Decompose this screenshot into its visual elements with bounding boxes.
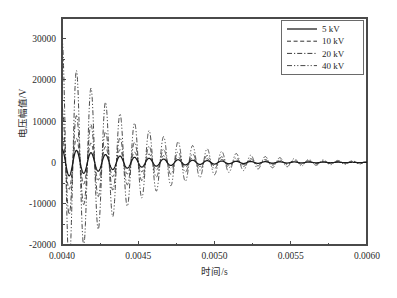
damped-oscillation-chart: 0.00400.00450.00500.00550.0060 300002000… — [0, 0, 397, 298]
legend-label-40-kv: 40 kV — [322, 61, 345, 71]
y-tick-label: 0 — [51, 158, 56, 168]
x-tick-label: 0.0060 — [354, 251, 380, 261]
x-axis-title: 时间/s — [201, 266, 228, 277]
x-axis-tick-marks — [62, 241, 367, 245]
y-tick-label: 30000 — [32, 34, 56, 44]
x-axis-tick-labels: 0.00400.00450.00500.00550.0060 — [49, 251, 380, 261]
chart-legend: 5 kV10 kV20 kV40 kV — [281, 20, 363, 74]
x-tick-label: 0.0045 — [125, 251, 151, 261]
y-tick-label: -10000 — [29, 199, 56, 209]
y-axis-title: 电压幅值/V — [17, 89, 28, 139]
x-tick-label: 0.0050 — [201, 251, 227, 261]
y-tick-label: 10000 — [32, 117, 56, 127]
y-tick-label: -20000 — [29, 240, 56, 250]
y-axis-tick-labels: 3000020000100000-10000-20000 — [29, 34, 56, 250]
legend-label-10-kv: 10 kV — [322, 36, 345, 46]
y-tick-label: 20000 — [32, 75, 56, 85]
x-tick-label: 0.0040 — [49, 251, 75, 261]
legend-label-20-kv: 20 kV — [322, 49, 345, 59]
x-tick-label: 0.0055 — [278, 251, 304, 261]
y-axis-tick-marks — [62, 39, 66, 245]
chart-figure: 0.00400.00450.00500.00550.0060 300002000… — [0, 0, 397, 298]
legend-label-5-kv: 5 kV — [322, 24, 340, 34]
trace-20-kv — [62, 107, 367, 215]
